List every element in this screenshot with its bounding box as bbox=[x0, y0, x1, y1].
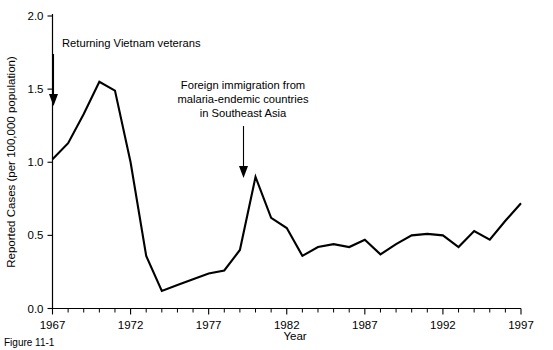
x-tick-label: 1967 bbox=[40, 319, 66, 331]
y-tick-label: 1.0 bbox=[28, 156, 44, 168]
x-axis-title: Year bbox=[283, 330, 306, 342]
y-tick-labels: 0.00.51.01.52.0 bbox=[28, 10, 44, 315]
annotation-vietnam-label: Returning Vietnam veterans bbox=[62, 37, 201, 49]
y-tick-label: 2.0 bbox=[28, 10, 44, 22]
annotation-vietnam-arrow-head bbox=[49, 94, 58, 106]
x-tick-label: 1972 bbox=[118, 319, 144, 331]
y-tick-label: 0.0 bbox=[28, 303, 44, 315]
y-tick-label: 0.5 bbox=[28, 229, 44, 241]
annotation-immigration-arrow-head bbox=[239, 166, 248, 178]
x-tick-label: 1987 bbox=[352, 319, 378, 331]
x-tick-label: 1977 bbox=[196, 319, 222, 331]
x-tick-label: 1997 bbox=[508, 319, 534, 331]
data-series-line bbox=[53, 82, 522, 291]
figure-caption: Figure 11-1 bbox=[4, 332, 54, 350]
annotation-immigration: Foreign immigration from malaria-endemic… bbox=[177, 79, 309, 178]
annotation-immigration-line1: Foreign immigration from bbox=[181, 79, 305, 91]
x-tick-label: 1982 bbox=[274, 319, 300, 331]
annotation-immigration-line3: in Southeast Asia bbox=[200, 107, 287, 119]
y-tick-label: 1.5 bbox=[28, 83, 44, 95]
y-axis-title: Reported Cases (per 100,000 population) bbox=[5, 56, 17, 268]
figure-caption-text: Figure 11-1 bbox=[4, 337, 54, 348]
x-tick-label: 1992 bbox=[430, 319, 456, 331]
x-tick-marks bbox=[53, 309, 522, 315]
axis-group bbox=[48, 14, 522, 315]
annotation-immigration-line2: malaria-endemic countries bbox=[177, 93, 309, 105]
x-tick-labels: 1967197219771982198719921997 bbox=[40, 319, 534, 331]
y-tick-marks bbox=[48, 16, 53, 309]
